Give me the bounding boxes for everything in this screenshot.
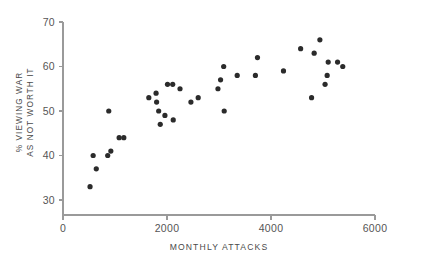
data-point: [154, 100, 159, 105]
x-tick-label: 6000: [363, 222, 388, 234]
y-tick-label: 60: [43, 60, 55, 72]
y-tick-label: 40: [43, 149, 55, 161]
data-point: [340, 64, 345, 69]
data-point: [177, 86, 182, 91]
data-point: [325, 73, 330, 78]
data-point: [188, 100, 193, 105]
data-point: [162, 113, 167, 118]
data-point: [170, 82, 175, 87]
data-point: [218, 77, 223, 82]
data-point: [255, 55, 260, 60]
data-point: [222, 108, 227, 113]
x-tick-label: 2000: [155, 222, 180, 234]
data-point: [158, 122, 163, 127]
data-point: [91, 153, 96, 158]
data-point: [94, 166, 99, 171]
x-tick-label: 4000: [259, 222, 284, 234]
data-point: [105, 153, 110, 158]
plot-canvas: 30405060700200040006000MONTHLY ATTACKS% …: [0, 0, 421, 260]
data-point: [326, 59, 331, 64]
data-point: [312, 51, 317, 56]
scatter-chart-figure: 30405060700200040006000MONTHLY ATTACKS% …: [0, 0, 421, 260]
data-point: [108, 148, 113, 153]
x-tick-label: 0: [60, 222, 66, 234]
data-point: [221, 64, 226, 69]
data-point: [121, 135, 126, 140]
data-point: [253, 73, 258, 78]
y-tick-label: 30: [43, 194, 55, 206]
data-point: [106, 108, 111, 113]
data-point: [215, 86, 220, 91]
y-tick-label: 50: [43, 105, 55, 117]
data-point: [317, 37, 322, 42]
data-point: [235, 73, 240, 78]
data-point: [156, 108, 161, 113]
data-point: [322, 82, 327, 87]
y-tick-label: 70: [43, 16, 55, 28]
data-point: [196, 95, 201, 100]
data-point: [153, 91, 158, 96]
x-axis-title: MONTHLY ATTACKS: [170, 242, 269, 252]
data-point: [171, 117, 176, 122]
data-point: [165, 82, 170, 87]
y-axis-title-line2: AS NOT WORTH IT: [26, 67, 35, 156]
data-point: [335, 59, 340, 64]
data-point: [281, 68, 286, 73]
data-point: [298, 46, 303, 51]
data-point: [87, 184, 92, 189]
y-axis-title-line1: % VIEWING WAR: [15, 72, 24, 152]
data-point: [117, 135, 122, 140]
data-point: [309, 95, 314, 100]
data-point: [146, 95, 151, 100]
